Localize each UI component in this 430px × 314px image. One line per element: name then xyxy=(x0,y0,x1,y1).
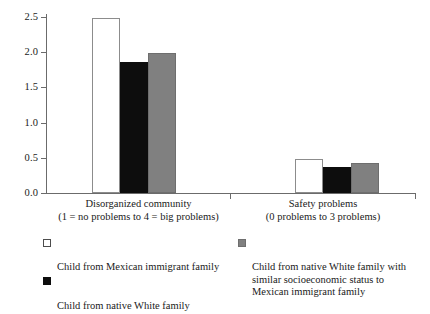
legend-label: Child from Mexican immigrant family xyxy=(57,261,219,272)
y-tick-label: 2.5 xyxy=(0,12,38,22)
group-label-line1: Safety problems xyxy=(231,198,415,211)
legend-item-native-white-family-similar-ses: Child from native White family with simi… xyxy=(238,236,406,299)
legend-column-left: Child from Mexican immigrant family Chil… xyxy=(43,236,219,314)
legend-label: Child from native White family with simi… xyxy=(252,261,406,297)
bar-safety-native-white xyxy=(323,167,351,193)
y-tick-label: 2.0 xyxy=(0,47,38,57)
group-label-line1: Disorganized community xyxy=(47,198,230,211)
bar-disorganized-native-white xyxy=(120,62,148,193)
y-tick-label: 1.0 xyxy=(0,118,38,128)
legend-swatch-black-icon xyxy=(43,277,51,285)
chart-legend: Child from Mexican immigrant family Chil… xyxy=(0,236,430,284)
x-group-label-disorganized-community: Disorganized community (1 = no problems … xyxy=(47,198,230,223)
x-axis-line xyxy=(46,193,416,194)
bar-safety-native-white-ses xyxy=(351,163,379,193)
legend-item-native-white-family: Child from native White family xyxy=(43,275,219,313)
y-tick-label: 1.5 xyxy=(0,82,38,92)
y-tick-label: 0.5 xyxy=(0,153,38,163)
legend-column-right: Child from native White family with simi… xyxy=(238,236,406,300)
legend-swatch-white-icon xyxy=(43,239,51,247)
group-label-line2: (1 = no problems to 4 = big problems) xyxy=(47,211,230,224)
y-tick-label: 0.0 xyxy=(0,188,38,198)
x-axis-end-tick xyxy=(415,193,416,199)
x-group-label-safety-problems: Safety problems (0 problems to 3 problem… xyxy=(231,198,415,223)
legend-swatch-gray-icon xyxy=(238,239,246,247)
legend-item-mexican-immigrant-family: Child from Mexican immigrant family xyxy=(43,236,219,274)
plot-area xyxy=(47,14,415,193)
bar-disorganized-mexican-immigrant xyxy=(92,18,120,193)
legend-label: Child from native White family xyxy=(57,300,190,311)
group-label-line2: (0 problems to 3 problems) xyxy=(231,211,415,224)
bar-safety-mexican-immigrant xyxy=(295,159,323,193)
bar-disorganized-native-white-ses xyxy=(148,53,176,193)
